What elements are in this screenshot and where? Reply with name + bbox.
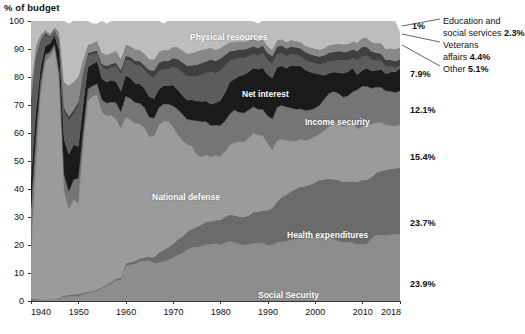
callout-value: 5.1% [468,64,489,74]
callout-line: social services 2.3% [443,28,525,40]
y-tick-label: 30 [0,213,24,222]
y-tick-label: 90 [0,45,24,54]
callout-value: 4.4% [470,52,491,62]
series-label-physical-resources: Physical resources [190,32,268,42]
x-tick-label: 1980 [211,308,231,317]
series-label-net-interest: Net interest [242,89,289,99]
y-tick-label: 100 [0,17,24,26]
x-tick-label: 1960 [116,308,136,317]
callout-line: Veterans [443,40,490,52]
y-tick-label: 40 [0,185,24,194]
leader-line [402,45,440,66]
callout-other-5-1-: Other 5.1% [443,64,489,76]
series-label-income-security: Income security [305,117,370,127]
callout-education-and: Education andsocial services 2.3% [443,16,525,39]
callout-value: 2.3% [504,28,525,38]
y-tick-label: 20 [0,241,24,250]
callout-line: Other 5.1% [443,64,489,76]
leader-line [402,34,440,42]
end-value-label: 23.9% [410,279,436,289]
y-tick-label: 0 [0,297,24,306]
y-tick-label: 60 [0,129,24,138]
x-tick-label: 1940 [31,308,51,317]
series-label-national-defense: National defense [152,192,220,202]
y-axis-title: % of budget [4,2,59,13]
end-value-label: 23.7% [410,218,436,228]
end-value-label: 1% [412,21,425,31]
y-tick-label: 70 [0,101,24,110]
callout-veterans: Veteransaffairs 4.4% [443,40,490,63]
end-value-label: 7.9% [410,69,431,79]
x-tick-label: 1950 [69,308,89,317]
end-value-label: 15.4% [410,152,436,162]
x-axis-line [31,301,401,302]
x-tick-label: 1970 [163,308,183,317]
x-tick-label: 2000 [305,308,325,317]
series-label-health-expenditures: Health expenditures [287,230,368,240]
x-tick-label: 2010 [353,308,373,317]
callout-line: Education and [443,16,525,28]
x-tick-label: 2018 [381,308,401,317]
y-tick-label: 80 [0,73,24,82]
series-label-social-security: Social Security [258,290,319,300]
y-tick-label: 50 [0,157,24,166]
callout-line: affairs 4.4% [443,52,490,64]
plot-area [31,21,400,301]
y-tick-label: 10 [0,269,24,278]
x-tick-label: 1990 [258,308,278,317]
area-series-group [31,21,400,301]
end-value-label: 12.1% [410,105,436,115]
